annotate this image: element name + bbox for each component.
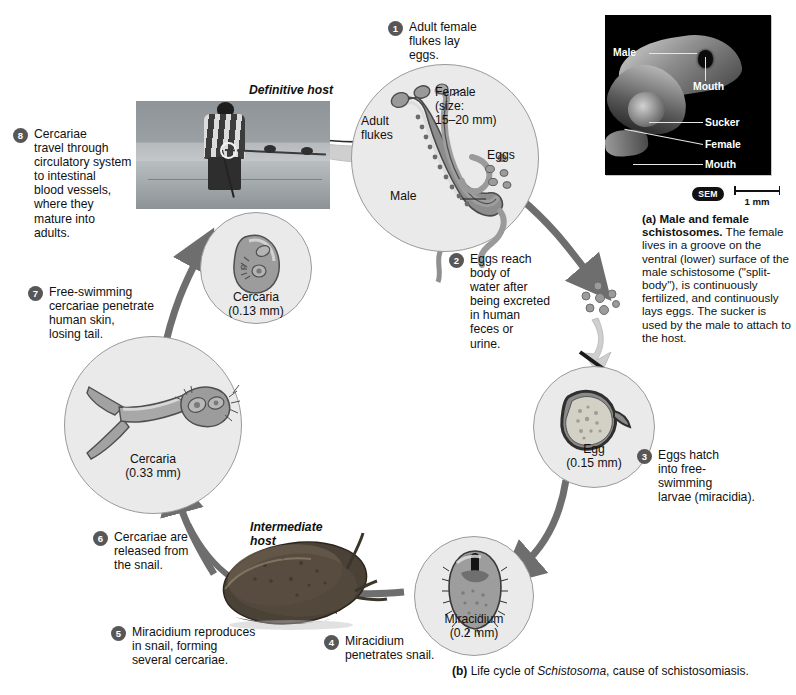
arrow-miracidium-to-snail	[325, 590, 404, 594]
stage-label-cercaria-large: Cercaria (0.33 mm)	[65, 453, 241, 480]
stage-label-eggs: Eggs	[487, 149, 515, 163]
step-4-text: Miracidium penetrates snail.	[345, 634, 434, 662]
sem-scale-bar	[734, 186, 780, 194]
sem-label-mouth-top: Mouth	[693, 81, 724, 92]
step-3-badge: 3	[637, 449, 652, 464]
step-2-text: Eggs reach body of water after being exc…	[470, 252, 550, 351]
step-2-badge: 2	[449, 253, 464, 268]
caption-b-italic: Schistosoma	[537, 664, 606, 678]
caption-b-prefix: (b)	[452, 664, 467, 678]
figure-canvas: Male Mouth Sucker Female Mouth SEM 1 mm	[0, 0, 796, 695]
sem-label-female: Female	[705, 139, 741, 150]
step-7: 7 Free-swimming cercariae penetrate huma…	[28, 285, 168, 341]
cercaria-large-art	[65, 337, 243, 515]
step-4-badge: 4	[324, 635, 339, 650]
step-6-badge: 6	[93, 531, 108, 546]
step-5: 5 Miracidium reproduces in snail, formin…	[111, 625, 291, 667]
step-6: 6 Cercariae are released from the snail.	[93, 530, 223, 572]
sem-badge: SEM	[692, 187, 724, 201]
step-4: 4 Miracidium penetrates snail.	[324, 634, 464, 662]
step-1-text: Adult female flukes lay eggs.	[409, 20, 477, 62]
step-1-badge: 1	[388, 21, 403, 36]
sem-label-male: Male	[613, 47, 636, 58]
sem-label-sucker: Sucker	[705, 117, 740, 128]
stage-circle-cercaria-large: Cercaria (0.33 mm)	[64, 336, 242, 514]
caption-b-text1: Life cycle of	[467, 664, 537, 678]
step-3-text: Eggs hatch into free- swimming larvae (m…	[658, 448, 755, 504]
stage-label-egg: Egg (0.15 mm)	[534, 443, 654, 470]
caption-a: (a) Male and female schistosomes. The fe…	[642, 212, 792, 344]
egg-cluster	[582, 282, 620, 315]
stage-label-male: Male	[390, 190, 416, 204]
step-6-text: Cercariae are released from the snail.	[114, 530, 189, 572]
stage-circle-cercaria-small: Cercaria (0.13 mm)	[200, 212, 312, 324]
intermediate-host-label: Intermediate host	[250, 521, 322, 549]
step-8-text: Cercariae travel through circulatory sys…	[34, 127, 132, 240]
step-7-badge: 7	[28, 286, 43, 301]
stage-label-cercaria-small: Cercaria (0.13 mm)	[201, 291, 311, 318]
stage-label-adult-flukes: Adult flukes	[361, 115, 393, 143]
step-1: 1 Adult female flukes lay eggs.	[388, 20, 494, 62]
sem-label-mouth-bottom: Mouth	[705, 159, 736, 170]
step-5-badge: 5	[111, 626, 126, 641]
step-2: 2 Eggs reach body of water after being e…	[449, 252, 561, 351]
definitive-host-photo	[136, 101, 330, 209]
caption-a-body: The female lives in a groove on the vent…	[642, 225, 791, 344]
caption-b: (b) Life cycle of Schistosoma, cause of …	[452, 664, 749, 678]
step-5-text: Miracidium reproduces in snail, forming …	[132, 625, 255, 667]
step-7-text: Free-swimming cercariae penetrate human …	[49, 285, 154, 341]
stage-label-female-size: Female (size: 15–20 mm)	[435, 86, 497, 127]
step-8-badge: 8	[13, 128, 28, 143]
caption-b-text2: , cause of schistosomiasis.	[606, 664, 749, 678]
sem-scale-label: 1 mm	[734, 196, 780, 207]
step-8: 8 Cercariae travel through circulatory s…	[13, 127, 133, 240]
step-3: 3 Eggs hatch into free- swimming larvae …	[637, 448, 787, 504]
definitive-host-label: Definitive host	[249, 84, 333, 98]
sem-micrograph: Male Mouth Sucker Female Mouth	[605, 15, 771, 175]
